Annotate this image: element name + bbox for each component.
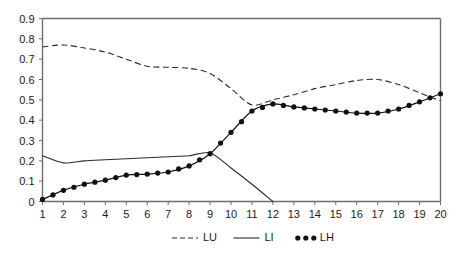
data-point-marker [333,108,338,113]
data-point-marker [124,172,129,177]
legend-label-lh: LH [320,231,334,243]
data-point-marker [113,175,118,180]
data-point-marker [270,101,275,106]
x-tick-label: 8 [186,208,192,220]
y-axis-tick-labels: 00.10.20.30.40.50.60.70.80.9 [19,13,34,208]
data-point-marker [61,188,66,193]
x-tick-label: 13 [288,208,300,220]
data-point-marker [354,110,359,115]
x-tick-label: 16 [351,208,363,220]
series-line-lh [43,94,441,200]
x-tick-label: 6 [144,208,150,220]
x-tick-label: 12 [267,208,279,220]
series-markers-lh [40,91,443,202]
data-point-marker [92,180,97,185]
data-point-marker [260,105,265,110]
data-point-marker [218,140,223,145]
x-axis-tick-labels: 1234567891011121314151617181920 [39,208,446,220]
x-tick-label: 7 [165,208,171,220]
data-point-marker [197,157,202,162]
legend-label-li: LI [264,231,273,243]
data-point-marker [375,110,380,115]
x-tick-label: 1 [39,208,45,220]
y-tick-label: 0.6 [19,74,34,86]
legend-swatch-marker [311,235,316,240]
data-point-marker [82,182,87,187]
x-tick-label: 14 [309,208,321,220]
data-point-marker [71,185,76,190]
x-tick-label: 19 [413,208,425,220]
data-point-marker [187,163,192,168]
x-tick-label: 9 [207,208,213,220]
data-point-marker [207,151,212,156]
y-tick-label: 0 [28,196,34,208]
data-point-marker [427,95,432,100]
x-tick-label: 5 [123,208,129,220]
x-tick-label: 4 [102,208,108,220]
data-point-marker [134,172,139,177]
series-line-li [43,152,273,201]
data-point-marker [312,106,317,111]
data-point-marker [396,106,401,111]
y-tick-label: 0.4 [19,114,34,126]
chart-legend: LULILH [172,231,334,243]
series-line-lu [43,45,441,105]
line-chart: 00.10.20.30.40.50.60.70.80.9 12345678910… [0,0,470,255]
x-tick-label: 10 [225,208,237,220]
data-point-marker [438,91,443,96]
chart-container: 00.10.20.30.40.50.60.70.80.9 12345678910… [0,0,470,255]
data-point-marker [155,170,160,175]
y-tick-label: 0.8 [19,33,34,45]
y-tick-label: 0.7 [19,53,34,65]
data-point-marker [365,110,370,115]
data-point-marker [176,166,181,171]
data-point-marker [103,178,108,183]
legend-swatch-marker [303,235,308,240]
y-tick-label: 0.9 [19,13,34,25]
x-tick-label: 18 [392,208,404,220]
x-tick-label: 17 [372,208,384,220]
data-point-marker [344,109,349,114]
data-point-marker [166,169,171,174]
data-point-marker [50,192,55,197]
data-point-marker [228,130,233,135]
x-tick-label: 11 [246,208,257,220]
y-tick-label: 0.3 [19,135,34,147]
data-point-marker [239,119,244,124]
x-tick-label: 15 [330,208,342,220]
x-tick-label: 3 [81,208,87,220]
data-point-marker [291,104,296,109]
data-point-marker [145,171,150,176]
legend-swatch-marker [295,235,300,240]
data-point-marker [417,99,422,104]
data-point-marker [281,103,286,108]
data-point-marker [302,105,307,110]
y-tick-label: 0.5 [19,94,34,106]
data-point-marker [249,108,254,113]
data-point-marker [323,107,328,112]
data-point-marker [406,103,411,108]
data-point-marker [40,197,45,202]
legend-label-lu: LU [203,231,217,243]
x-tick-label: 20 [434,208,446,220]
y-tick-label: 0.1 [19,175,34,187]
y-tick-label: 0.2 [19,155,34,167]
x-tick-label: 2 [60,208,66,220]
data-point-marker [386,108,391,113]
